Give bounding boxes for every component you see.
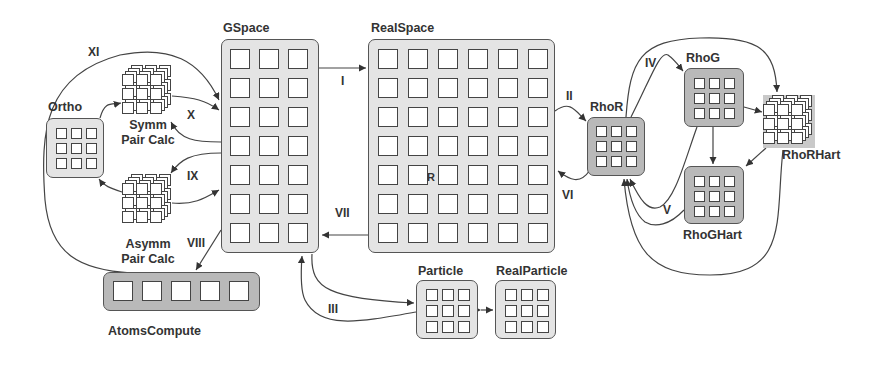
edge-asymm-gspace: [172, 190, 219, 203]
rhor-label: RhoR: [590, 100, 623, 114]
asymm-label-line2: Pair Calc: [112, 252, 184, 267]
gspace-node[interactable]: [221, 39, 319, 253]
cube-cell: [136, 197, 148, 209]
cube-cell: [136, 183, 148, 195]
edge-symm-gspace: [172, 96, 219, 110]
edge-asymm-ortho: [99, 179, 122, 192]
cube-cell: [136, 211, 148, 223]
cube-cell: [150, 74, 162, 86]
rhor-grid: [596, 126, 637, 167]
particle-node[interactable]: [416, 280, 478, 339]
edge-rhorhart-rhoghart: [746, 148, 766, 166]
cube-cell: [763, 104, 775, 116]
edge-label-VI: VI: [562, 188, 573, 202]
realparticle-node[interactable]: [495, 280, 556, 339]
particle-label: Particle: [418, 264, 463, 278]
particle-grid: [426, 289, 470, 333]
cube-cell: [763, 118, 775, 130]
edge-label-II: II: [566, 89, 573, 103]
cube-cell: [122, 74, 134, 86]
cube-cell: [150, 211, 162, 223]
rhog-node[interactable]: [684, 68, 744, 127]
edge-label-VII: VII: [335, 206, 350, 220]
edge-label-XI: XI: [88, 45, 99, 59]
realparticle-grid: [505, 289, 549, 333]
gspace-label: GSpace: [223, 21, 270, 35]
atoms-compute-node[interactable]: [103, 272, 260, 311]
diagram-canvas: GSpace RealSpace R Ortho: [0, 0, 876, 366]
cube-cell: [791, 118, 803, 130]
cube-cell: [777, 118, 789, 130]
cube-cell: [136, 74, 148, 86]
symm-label-line1: Symm: [112, 118, 184, 133]
edge-II: [555, 106, 586, 121]
realspace-label: RealSpace: [371, 21, 434, 35]
rhoghart-grid: [694, 176, 735, 217]
realparticle-label: RealParticle: [496, 264, 568, 278]
ortho-grid: [56, 128, 97, 169]
edge-VI: [558, 170, 590, 180]
asymm-pair-calc-node[interactable]: [122, 174, 174, 226]
edge-rhog-rhorhart: [744, 107, 762, 112]
rhoghart-node[interactable]: [684, 166, 744, 224]
edge-label-IX: IX: [187, 169, 198, 183]
ortho-node[interactable]: [46, 118, 104, 178]
cube-cell: [150, 183, 162, 195]
cube-cell: [122, 88, 134, 100]
cube-cell: [122, 211, 134, 223]
edge-IV: [631, 54, 683, 117]
cube-cell: [791, 104, 803, 116]
cube-cell: [777, 104, 789, 116]
edge-label-I: I: [341, 74, 344, 88]
cube-cell: [136, 88, 148, 100]
rhog-label: RhoG: [686, 51, 720, 65]
edge-label-V: V: [663, 203, 671, 217]
cube-cell: [763, 132, 775, 144]
symm-pair-calc-node[interactable]: [122, 65, 174, 117]
symm-label-line2: Pair Calc: [112, 133, 184, 148]
realspace-grid: [378, 49, 548, 243]
edge-III-back: [301, 256, 416, 321]
cube-cell: [122, 197, 134, 209]
gspace-grid: [230, 49, 308, 243]
cube-cell: [136, 102, 148, 114]
symm-pair-calc-label: Symm Pair Calc: [112, 118, 184, 148]
ortho-label: Ortho: [48, 100, 82, 114]
atoms-compute-grid: [113, 281, 249, 301]
asymm-pair-calc-label: Asymm Pair Calc: [112, 237, 184, 267]
atoms-compute-label: AtomsCompute: [108, 324, 201, 338]
cube-cell: [150, 88, 162, 100]
edge-label-III: III: [328, 302, 338, 316]
edge-label-IV: IV: [645, 56, 656, 70]
cube-cell: [777, 132, 789, 144]
edge-III-out: [312, 254, 414, 303]
edge-label-VIII: VIII: [187, 236, 205, 250]
cube-cell: [150, 197, 162, 209]
rhorhart-node[interactable]: [763, 95, 815, 148]
rhog-grid: [694, 78, 735, 119]
realspace-node[interactable]: R: [368, 39, 555, 253]
edge-label-X: X: [187, 108, 195, 122]
cube-cell: [122, 102, 134, 114]
realspace-inner-mark: R: [427, 171, 435, 183]
edge-ortho-symm: [100, 103, 121, 118]
rhoghart-label: RhoGHart: [683, 228, 742, 242]
asymm-label-line1: Asymm: [112, 237, 184, 252]
cube-cell: [791, 132, 803, 144]
rhorhart-label: RhoRHart: [782, 148, 840, 162]
cube-cell: [150, 102, 162, 114]
rhor-node[interactable]: [587, 117, 645, 176]
cube-cell: [122, 183, 134, 195]
